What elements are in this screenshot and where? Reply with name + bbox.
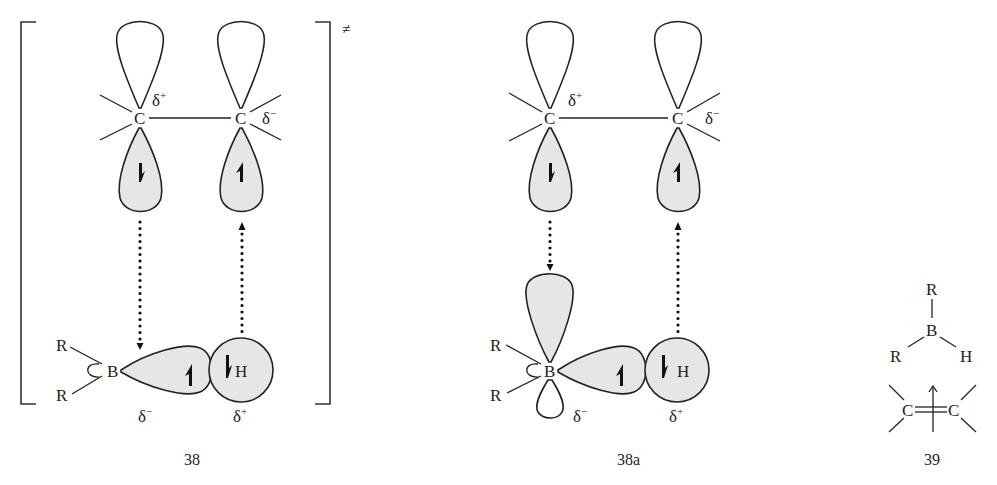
- left-bracket: [21, 22, 36, 404]
- angle-arc: [527, 364, 538, 377]
- c1-substituent-lower: [100, 124, 132, 140]
- c2-substituent-lower: [961, 418, 976, 432]
- c1-substituent-upper: [100, 95, 132, 112]
- structure-label-39: 39: [924, 451, 940, 468]
- structure-38a: C C δ+ δ− R R B H δ− δ+ 38a: [490, 22, 720, 469]
- charge-b: δ−: [138, 405, 152, 426]
- structure-38: ≠ C C δ+ δ− R R B H: [21, 21, 350, 468]
- atom-c1: C: [544, 109, 555, 128]
- c1-substituent-lower: [509, 124, 542, 141]
- atom-r-left: R: [890, 347, 902, 366]
- b-r-bond-left: [908, 337, 924, 347]
- charge-h: δ+: [669, 405, 683, 426]
- b-r-bond-lower: [507, 376, 541, 393]
- structure-label-38: 38: [184, 451, 200, 468]
- atom-h: H: [235, 362, 247, 381]
- c2-upper-p-lobe: [218, 22, 265, 109]
- b-r-bond-upper: [506, 345, 541, 364]
- atom-r1: R: [490, 336, 502, 355]
- atom-c2: C: [948, 401, 959, 420]
- c1-substituent-upper: [509, 93, 542, 112]
- b-r-bond-upper: [70, 347, 102, 364]
- arrow-up-icon: [239, 222, 246, 230]
- atom-h: H: [677, 362, 689, 381]
- arrow-down-icon: [137, 343, 144, 350]
- atom-b: B: [926, 321, 937, 340]
- atom-c2: C: [672, 109, 683, 128]
- structure-label-38a: 38a: [617, 451, 640, 468]
- charge-c2: δ−: [262, 107, 276, 128]
- atom-b: B: [107, 362, 118, 381]
- charge-h: δ+: [233, 405, 247, 426]
- atom-c1: C: [902, 401, 913, 420]
- atom-c1: C: [134, 109, 145, 128]
- b-upper-p-lobe: [526, 274, 573, 362]
- atom-r1: R: [56, 336, 68, 355]
- b-sp-lobe: [558, 346, 646, 394]
- atom-b: B: [544, 362, 555, 381]
- charge-c1: δ+: [568, 89, 582, 110]
- c2-substituent-lower: [687, 124, 720, 141]
- hydroboration-orbital-diagram: ≠ C C δ+ δ− R R B H: [0, 0, 997, 485]
- arrow-up-icon: [675, 222, 682, 230]
- b-lower-p-lobe: [537, 380, 564, 418]
- right-bracket: [315, 22, 330, 404]
- atom-r2: R: [490, 386, 502, 405]
- transition-state-mark: ≠: [342, 21, 350, 37]
- c2-upper-p-lobe: [655, 22, 702, 109]
- c1-substituent-upper: [889, 385, 904, 400]
- atom-c2: C: [235, 109, 246, 128]
- structure-39: R B R H C C 39: [889, 280, 976, 468]
- arrow-down-icon: [547, 264, 554, 271]
- c1-upper-p-lobe: [527, 22, 574, 109]
- charge-c2: δ−: [705, 107, 719, 128]
- b-sp-lobe: [121, 346, 212, 394]
- charge-b: δ−: [573, 405, 587, 426]
- atom-h: H: [960, 347, 972, 366]
- atom-r2: R: [56, 386, 68, 405]
- angle-arc: [88, 364, 99, 377]
- charge-c1: δ+: [152, 89, 166, 110]
- c1-substituent-lower: [889, 418, 904, 432]
- b-h-bond: [940, 337, 956, 347]
- b-r-bond-lower: [72, 376, 102, 394]
- atom-r-top: R: [926, 280, 938, 299]
- c2-substituent-upper: [961, 385, 976, 400]
